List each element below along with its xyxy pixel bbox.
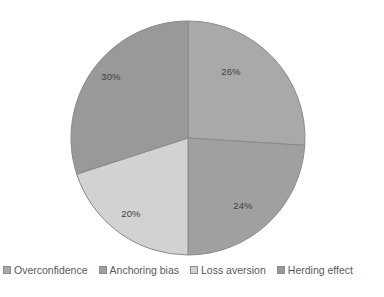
pie-chart-figure: 26%24%20%30% OverconfidenceAnchoring bia… (0, 0, 384, 297)
pie-slice-overconfidence (188, 21, 305, 145)
legend-swatch-icon-herding-effect (277, 266, 285, 274)
legend-item-loss-aversion[interactable]: Loss aversion (190, 264, 266, 276)
legend-item-label: Anchoring bias (110, 264, 179, 276)
legend-item-overconfidence[interactable]: Overconfidence (3, 264, 88, 276)
pie-slice-anchoring-bias (188, 138, 305, 255)
legend-swatch-icon-loss-aversion (190, 266, 198, 274)
legend-item-label: Loss aversion (201, 264, 266, 276)
legend-item-herding-effect[interactable]: Herding effect (277, 264, 353, 276)
pie-data-label-loss-aversion: 20% (121, 208, 141, 219)
pie-data-label-overconfidence: 26% (221, 66, 241, 77)
legend-item-anchoring-bias[interactable]: Anchoring bias (99, 264, 179, 276)
legend-item-label: Herding effect (288, 264, 353, 276)
legend-swatch-icon-anchoring-bias (99, 266, 107, 274)
legend-item-label: Overconfidence (14, 264, 88, 276)
pie-slice-group (71, 21, 305, 255)
chart-legend: OverconfidenceAnchoring biasLoss aversio… (0, 264, 384, 297)
pie-svg: 26%24%20%30% (0, 0, 384, 262)
legend-swatch-icon-overconfidence (3, 266, 11, 274)
pie-plot-area: 26%24%20%30% (0, 0, 384, 262)
pie-data-label-anchoring-bias: 24% (233, 200, 253, 211)
pie-data-label-herding-effect: 30% (101, 71, 121, 82)
